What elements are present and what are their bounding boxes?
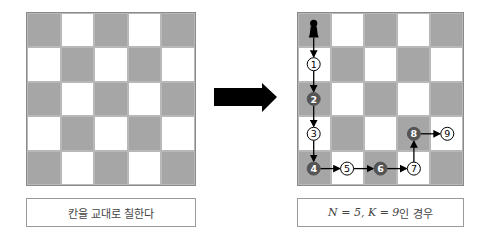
- path-node-8: 8: [407, 127, 420, 140]
- right-caption-suffix: 인 경우: [399, 205, 433, 221]
- path-node-9: 9: [441, 127, 454, 140]
- svg-text:6: 6: [377, 163, 384, 174]
- path-node-7: 7: [407, 162, 420, 175]
- path-node-5: 5: [341, 162, 354, 175]
- svg-text:1: 1: [311, 59, 317, 70]
- left-caption: 칸을 교대로 칠한다: [26, 198, 196, 227]
- svg-text:5: 5: [344, 163, 350, 174]
- path-node-3: 3: [307, 127, 320, 140]
- pawn-icon: [309, 20, 319, 38]
- svg-text:4: 4: [310, 163, 317, 174]
- svg-text:7: 7: [411, 163, 417, 174]
- path-node-2: 2: [307, 93, 320, 106]
- right-caption-math: N = 5, K = 9: [328, 206, 399, 219]
- path-node-4: 4: [307, 162, 320, 175]
- path-node-6: 6: [374, 162, 387, 175]
- svg-text:3: 3: [311, 128, 317, 139]
- left-caption-text: 칸을 교대로 칠한다: [68, 205, 155, 221]
- svg-text:9: 9: [444, 128, 450, 139]
- svg-text:8: 8: [411, 128, 418, 139]
- svg-text:2: 2: [310, 94, 317, 105]
- path-node-1: 1: [307, 58, 320, 71]
- right-caption: N = 5, K = 9 인 경우: [297, 198, 464, 227]
